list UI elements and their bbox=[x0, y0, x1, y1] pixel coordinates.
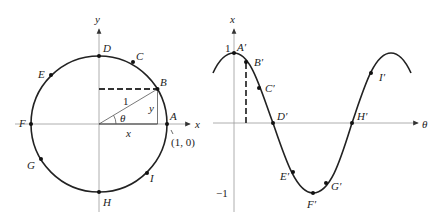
tick-label-neg1: −1 bbox=[216, 187, 228, 199]
point-label-c-prime: C′ bbox=[265, 82, 275, 94]
x-axis-label: x bbox=[229, 13, 235, 25]
coord-pointer bbox=[171, 130, 173, 134]
theta-label: θ bbox=[120, 112, 126, 124]
point-label-f-prime: F′ bbox=[306, 198, 317, 210]
radius-label: 1 bbox=[123, 95, 129, 107]
point-label-f: F bbox=[18, 117, 26, 129]
angle-arc bbox=[114, 115, 116, 124]
point-label-b: B bbox=[160, 76, 167, 88]
point-label-g: G bbox=[27, 159, 35, 171]
point-label-h: H bbox=[102, 196, 112, 208]
x-axis-label: x bbox=[194, 118, 200, 130]
point-label-d: D bbox=[102, 42, 111, 54]
point-label-a-prime: A′ bbox=[236, 41, 247, 53]
x-leg-label: x bbox=[125, 127, 131, 139]
unit-circle-figure: x y A B C D E F G H I 1 θ y x (1, 0) bbox=[15, 13, 200, 212]
point-label-e-prime: E′ bbox=[279, 170, 290, 182]
point-label-i-prime: I′ bbox=[378, 71, 386, 83]
theta-axis-label: θ bbox=[422, 118, 428, 130]
tick-label-1: 1 bbox=[225, 42, 231, 54]
point-label-g-prime: G′ bbox=[331, 180, 342, 192]
point-label-c: C bbox=[136, 50, 144, 62]
point-label-a: A bbox=[169, 110, 177, 122]
point-label-b-prime: B′ bbox=[254, 56, 264, 68]
cosine-graph-figure: θ x 1 −1 A′ B′ C′ D′ E′ F′ G′ H′ I′ bbox=[213, 13, 428, 212]
point-label-d-prime: D′ bbox=[276, 110, 288, 122]
y-axis-label: y bbox=[94, 13, 100, 25]
point-label-h-prime: H′ bbox=[356, 110, 368, 122]
coord-label: (1, 0) bbox=[171, 136, 195, 149]
point-label-i: I bbox=[149, 172, 155, 184]
unit-circle-and-cosine-diagram: x y A B C D E F G H I 1 θ y x (1, 0) bbox=[0, 0, 439, 217]
y-leg-label: y bbox=[148, 102, 154, 114]
point-label-e: E bbox=[37, 68, 45, 80]
